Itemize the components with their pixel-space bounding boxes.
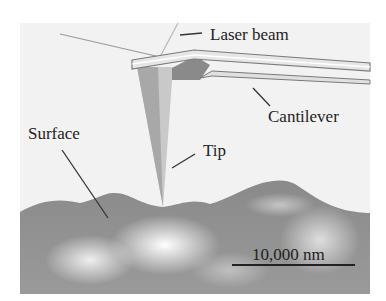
tip-leader — [172, 154, 195, 168]
scale-bar-label: 10,000 nm — [252, 246, 325, 263]
cantilever-label: Cantilever — [268, 108, 339, 125]
laser-beam-leader — [180, 33, 202, 35]
tip-shape — [137, 67, 173, 207]
laser-beam-label: Laser beam — [210, 26, 289, 43]
afm-diagram — [0, 0, 386, 301]
surface-label: Surface — [28, 125, 80, 142]
cantilever-leader — [253, 88, 270, 106]
sample-surface — [20, 181, 370, 295]
tip-label: Tip — [203, 142, 226, 159]
laser-beam — [60, 23, 178, 57]
